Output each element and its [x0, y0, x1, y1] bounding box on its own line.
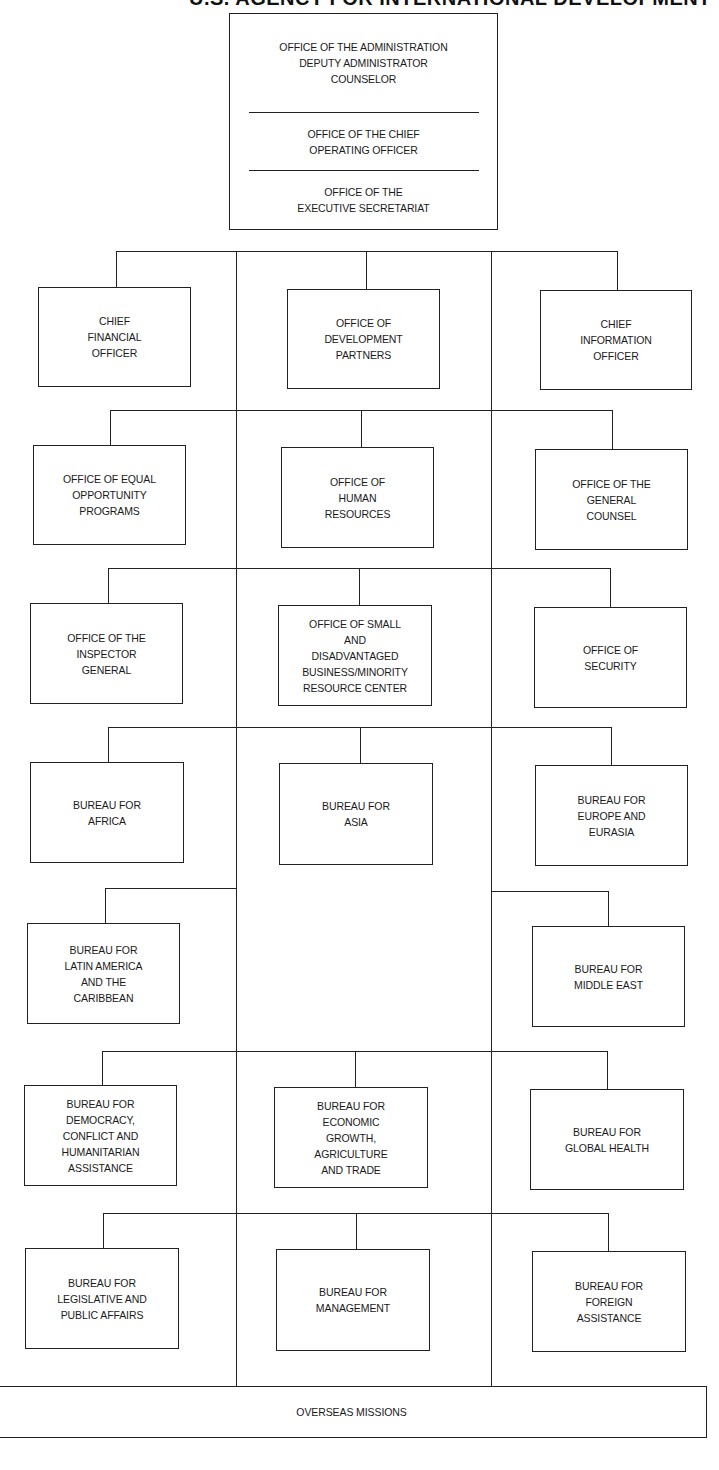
administrator-section: OFFICE OF THE ADMINISTRATION DEPUTY ADMI… [230, 14, 497, 112]
box-label: BUREAU FOR DEMOCRACY, CONFLICT AND HUMAN… [62, 1096, 140, 1176]
box-label: BUREAU FOR EUROPE AND EURASIA [578, 792, 646, 840]
bureau-for-europe-and-eurasia-box: BUREAU FOR EUROPE AND EURASIA [535, 765, 688, 866]
row1-bar [116, 251, 618, 252]
chief-financial-officer-box: CHIEF FINANCIAL OFFICER [38, 287, 191, 387]
row6-left-drop [102, 1051, 103, 1086]
row7-left-drop [103, 1213, 104, 1249]
chart-title: U.S. AGENCY FOR INTERNATIONAL DEVELOPMEN… [189, 0, 711, 8]
box-label: BUREAU FOR ECONOMIC GROWTH, AGRICULTURE … [314, 1098, 387, 1178]
box-label: BUREAU FOR FOREIGN ASSISTANCE [575, 1278, 643, 1326]
row2-right-drop [612, 410, 613, 450]
row5-right-drop [608, 891, 609, 927]
chief-operating-officer-section: OFFICE OF THE CHIEF OPERATING OFFICER [230, 113, 497, 170]
box-label: OFFICE OF SMALL AND DISADVANTAGED BUSINE… [302, 616, 408, 696]
overseas-missions-box: OVERSEAS MISSIONS [0, 1386, 707, 1438]
box-label: OFFICE OF THE GENERAL COUNSEL [572, 476, 650, 524]
row3-right-drop [610, 568, 611, 608]
office-of-security-box: OFFICE OF SECURITY [534, 607, 687, 708]
box-label: OFFICE OF THE INSPECTOR GENERAL [67, 630, 145, 678]
box-label: BUREAU FOR AFRICA [73, 797, 141, 829]
row4-right-drop [611, 727, 612, 766]
office-of-the-general-counsel-box: OFFICE OF THE GENERAL COUNSEL [535, 449, 688, 550]
office-of-human-resources-box: OFFICE OF HUMAN RESOURCES [281, 447, 434, 548]
bureau-for-africa-box: BUREAU FOR AFRICA [30, 762, 184, 863]
box-label: BUREAU FOR LATIN AMERICA AND THE CARIBBE… [65, 942, 143, 1006]
box-label: CHIEF FINANCIAL OFFICER [88, 313, 142, 361]
office-of-the-inspector-general-box: OFFICE OF THE INSPECTOR GENERAL [30, 603, 183, 704]
box-label: CHIEF INFORMATION OFFICER [580, 316, 652, 364]
bureau-for-foreign-assistance-box: BUREAU FOR FOREIGN ASSISTANCE [532, 1251, 686, 1352]
bureau-for-middle-east-box: BUREAU FOR MIDDLE EAST [532, 926, 685, 1027]
chief-information-officer-box: CHIEF INFORMATION OFFICER [540, 290, 692, 390]
row7-right-drop [608, 1213, 609, 1252]
row2-center-drop [361, 410, 362, 448]
office-of-development-partners-box: OFFICE OF DEVELOPMENT PARTNERS [287, 289, 440, 389]
row3-center-drop [359, 568, 360, 606]
box-label: BUREAU FOR MIDDLE EAST [574, 961, 643, 993]
bureau-for-democracy-conflict-humanitarian-box: BUREAU FOR DEMOCRACY, CONFLICT AND HUMAN… [24, 1085, 177, 1186]
row5-left-branch [105, 888, 237, 889]
bureau-for-global-health-box: BUREAU FOR GLOBAL HEALTH [530, 1089, 684, 1190]
row2-left-drop [110, 410, 111, 446]
row7-center-drop [356, 1213, 357, 1250]
box-label: BUREAU FOR LEGISLATIVE AND PUBLIC AFFAIR… [57, 1275, 146, 1323]
box-label: BUREAU FOR GLOBAL HEALTH [565, 1124, 649, 1156]
office-of-equal-opportunity-programs-box: OFFICE OF EQUAL OPPORTUNITY PROGRAMS [33, 445, 186, 545]
row6-right-drop [607, 1051, 608, 1090]
box-label: BUREAU FOR MANAGEMENT [316, 1284, 390, 1316]
chart-title-clipped: U.S. AGENCY FOR INTERNATIONAL DEVELOPMEN… [0, 0, 719, 8]
right-trunk-line [491, 251, 492, 1387]
bureau-for-latin-america-and-caribbean-box: BUREAU FOR LATIN AMERICA AND THE CARIBBE… [27, 923, 180, 1024]
bureau-for-economic-growth-agriculture-trade-box: BUREAU FOR ECONOMIC GROWTH, AGRICULTURE … [274, 1087, 428, 1188]
row4-left-drop [108, 727, 109, 763]
box-label: OFFICE OF SECURITY [583, 642, 638, 674]
row1-right-drop [617, 251, 618, 291]
bureau-for-asia-box: BUREAU FOR ASIA [279, 763, 433, 865]
row5-right-branch [491, 891, 609, 892]
bureau-for-management-box: BUREAU FOR MANAGEMENT [276, 1249, 430, 1351]
office-of-small-and-disadvantaged-business-box: OFFICE OF SMALL AND DISADVANTAGED BUSINE… [278, 605, 432, 706]
box-label: OVERSEAS MISSIONS [296, 1404, 406, 1420]
box-label: OFFICE OF EQUAL OPPORTUNITY PROGRAMS [63, 471, 156, 519]
box-label: OFFICE OF HUMAN RESOURCES [325, 474, 391, 522]
bureau-for-legislative-and-public-affairs-box: BUREAU FOR LEGISLATIVE AND PUBLIC AFFAIR… [25, 1248, 179, 1349]
row5-left-drop [105, 888, 106, 924]
row1-left-drop [116, 251, 117, 288]
left-trunk-line [236, 251, 237, 1387]
box-label: OFFICE OF DEVELOPMENT PARTNERS [324, 315, 402, 363]
box-label: BUREAU FOR ASIA [322, 798, 390, 830]
executive-secretariat-section: OFFICE OF THE EXECUTIVE SECRETARIAT [230, 171, 497, 229]
row6-center-drop [355, 1051, 356, 1088]
office-of-the-administrator-box: OFFICE OF THE ADMINISTRATION DEPUTY ADMI… [229, 13, 498, 230]
row1-center-drop [366, 251, 367, 289]
row3-left-drop [108, 568, 109, 604]
row4-center-drop [360, 727, 361, 764]
